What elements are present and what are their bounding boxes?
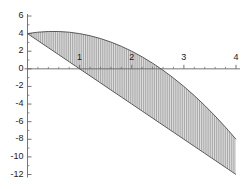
y-tick-label: -4 [15,99,23,108]
y-tick-label: -8 [15,134,23,143]
shaded-region [28,10,237,182]
y-tick-label: 0 [18,64,23,73]
x-tick-label: 1 [70,53,90,62]
y-tick-label: 6 [18,11,23,20]
plot-area [0,0,247,189]
y-tick-label: 4 [18,29,23,38]
y-tick-label: -10 [10,152,23,161]
x-tick-label: 4 [226,53,246,62]
y-tick-label: -6 [15,117,23,126]
y-tick-label: -2 [15,81,23,90]
x-tick-label: 3 [174,53,194,62]
y-tick-label: -12 [10,170,23,179]
y-tick-label: 2 [18,46,23,55]
chart-figure: 6420-2-4-6-8-10-121234 [0,0,247,189]
x-tick-label: 2 [122,53,142,62]
y-axis-ticks [28,16,32,175]
